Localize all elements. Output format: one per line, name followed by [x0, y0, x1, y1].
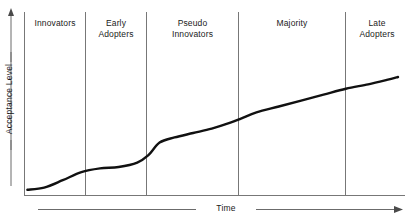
segment-label-majority: Majority — [239, 18, 345, 29]
segment-label-early-adopters: Early Adopters — [86, 18, 146, 39]
x-axis-title: Time — [196, 203, 256, 213]
segment-label-innovators: Innovators — [25, 18, 85, 29]
y-axis-title: Acceptance Level — [4, 53, 14, 145]
segment-label-pseudo-innovators: Pseudo Innovators — [147, 18, 238, 39]
adoption-curve-line — [27, 77, 398, 190]
adoption-curve-chart: Innovators Early Adopters Pseudo Innovat… — [0, 0, 411, 221]
segment-label-late-adopters: Late Adopters — [346, 18, 408, 39]
